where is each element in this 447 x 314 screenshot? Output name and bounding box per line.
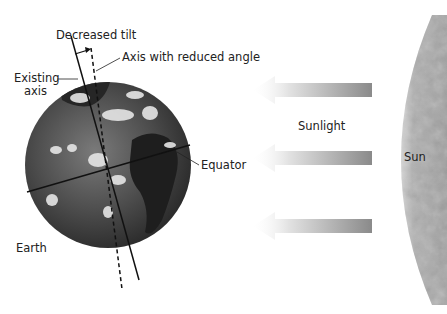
sunlight-arrow-top — [253, 76, 372, 104]
decreased-tilt-label: Decreased tilt — [56, 29, 136, 42]
sunlight-label: Sunlight — [298, 120, 345, 133]
earth-label: Earth — [16, 242, 47, 255]
sun-label: Sun — [404, 151, 426, 164]
equator-label: Equator — [201, 159, 246, 172]
existing-axis-label-2: axis — [24, 85, 47, 98]
axis-reduced-label: Axis with reduced angle — [122, 51, 260, 64]
axis-reduced-leader — [96, 58, 120, 71]
diagram-canvas — [0, 0, 447, 314]
earth-globe — [25, 80, 191, 248]
tilt-indicator-arrow — [75, 47, 91, 54]
sunlight-arrow-middle — [253, 144, 372, 172]
sunlight-arrow-bottom — [253, 212, 372, 240]
